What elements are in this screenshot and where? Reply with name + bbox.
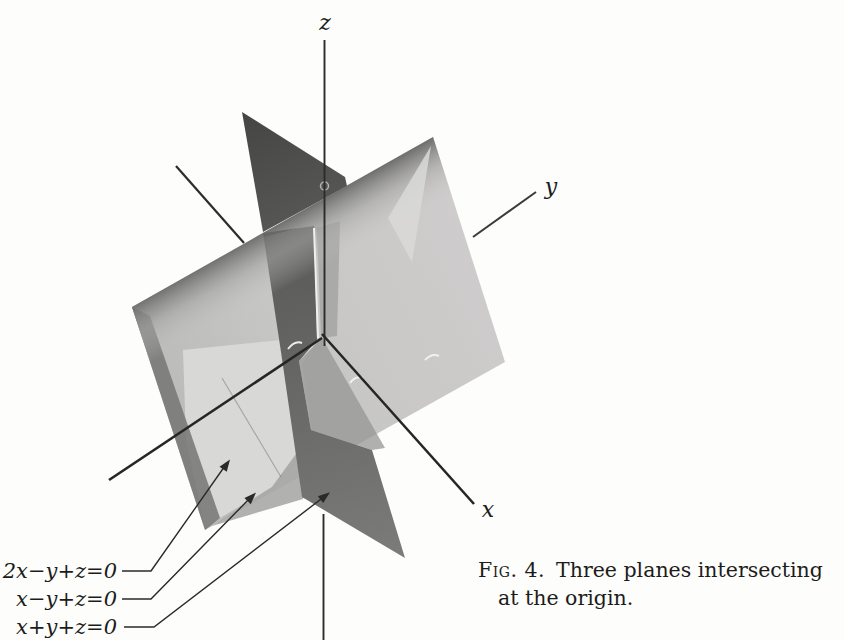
figure-caption-line1: Fig. 4.Three planes intersecting (478, 558, 823, 582)
figure-illustration: z y x 2x−y+z=0 x−y+z=0 x+y+z=0 Fig. 4.Th… (0, 0, 844, 640)
figure-caption-tag: Fig. 4. (478, 558, 545, 582)
x-axis-label: x (482, 497, 495, 522)
figure-caption-line2: at the origin. (498, 586, 633, 610)
textbook-figure-page: z y x 2x−y+z=0 x−y+z=0 x+y+z=0 Fig. 4.Th… (0, 0, 844, 640)
equation-label-3: x+y+z=0 (16, 615, 117, 639)
equation-label-2: x−y+z=0 (16, 587, 117, 611)
equation-label-1: 2x−y+z=0 (2, 559, 117, 583)
y-axis-label: y (544, 174, 558, 199)
figure-caption-text: Three planes intersecting (556, 558, 823, 582)
z-axis-label: z (318, 10, 331, 35)
